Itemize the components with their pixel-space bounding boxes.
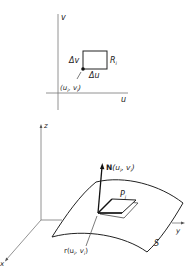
delta-u-label: Δu <box>88 71 100 80</box>
surface-label: S <box>154 239 159 248</box>
position-label: r(ui, vi) <box>64 247 88 256</box>
surface-area-diagram: v u Δv Δu Ri (ui, vi) z x y S Pi <box>0 0 195 270</box>
x-axis-label: x <box>0 260 5 268</box>
v-axis-label: v <box>61 13 66 22</box>
y-axis-label: y <box>175 227 181 235</box>
normal-label: N(ui, vi) <box>106 163 135 173</box>
delta-v-label: Δv <box>68 56 79 65</box>
parameter-domain-plot: v u Δv Δu Ri (ui, vi) <box>46 13 128 110</box>
x-axis <box>6 220 41 260</box>
region-rectangle <box>83 51 107 69</box>
z-axis-label: z <box>43 122 48 130</box>
surface-3d-plot: z x y S Pi N(ui, vi) r(ui, vi) <box>0 122 185 268</box>
corner-point <box>81 67 85 71</box>
point-label: (ui, vi) <box>60 84 81 93</box>
point-pointer-line <box>77 72 81 79</box>
region-label: Ri <box>110 56 118 66</box>
normal-arrow-icon <box>100 163 104 169</box>
z-axis-arrow-icon <box>40 124 43 128</box>
y-axis-arrow-icon <box>181 222 185 225</box>
u-axis-label: u <box>121 95 126 104</box>
